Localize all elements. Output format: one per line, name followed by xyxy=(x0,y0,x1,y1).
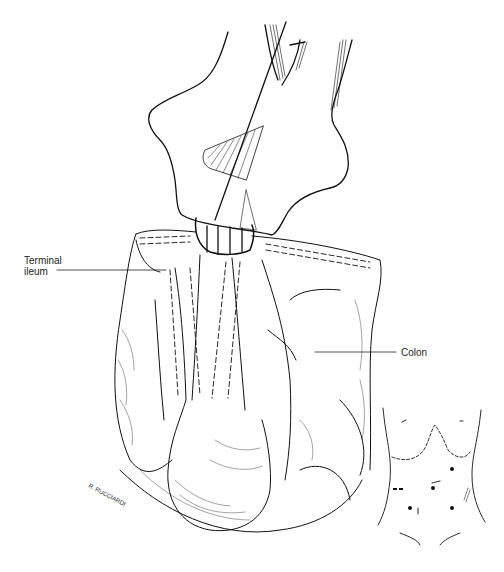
port-site-5 xyxy=(393,488,397,490)
port-site-3 xyxy=(408,506,412,510)
artist-signature: R. RUCCIARDI xyxy=(88,483,127,508)
stapler-instrument xyxy=(149,22,352,254)
surgical-illustration: R. RUCCIARDI xyxy=(0,0,504,572)
port-site-2 xyxy=(431,486,435,490)
port-site-1 xyxy=(450,467,454,471)
terminal-ileum-line1: Terminal xyxy=(24,255,62,266)
port-site-4 xyxy=(450,506,454,510)
terminal-ileum-label: Terminal ileum xyxy=(24,255,62,277)
terminal-ileum-line2: ileum xyxy=(24,266,62,277)
inset-abdomen xyxy=(378,408,485,545)
bowel-loops xyxy=(115,230,381,532)
colon-label: Colon xyxy=(401,347,427,358)
